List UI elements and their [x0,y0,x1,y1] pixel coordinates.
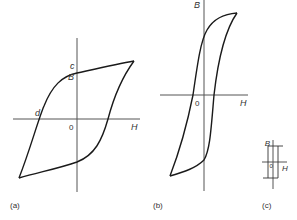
panel-b-caption: (b) [153,201,163,210]
panel-c-caption: (c) [262,201,272,210]
panel-a-caption: (a) [10,201,20,210]
panel-c-b-label: B [265,139,271,148]
panel-a: B c d 0 H (a) [10,38,140,210]
panel-a-h-label: H [131,122,138,132]
panel-b-origin-label: 0 [195,99,200,108]
panel-a-origin-label: 0 [69,123,74,132]
hysteresis-figure: B c d 0 H (a) B 0 H (b) B 0 H (c) [0,0,297,220]
panel-c-h-label: H [282,164,288,173]
panel-b: B 0 H (b) [153,0,248,210]
panel-c: B 0 H (c) [262,139,288,210]
panel-a-c-label: c [70,61,75,71]
panel-b-h-label: H [240,98,247,108]
panel-a-b-label: B [68,72,74,82]
panel-b-b-label: B [194,0,200,10]
